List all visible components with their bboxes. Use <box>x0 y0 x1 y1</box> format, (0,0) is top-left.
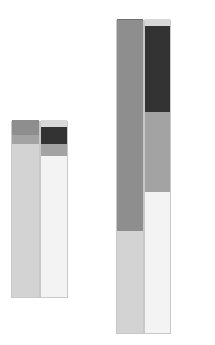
bar-segment <box>12 120 39 135</box>
bar-segment <box>117 231 143 333</box>
bar-segment <box>41 120 67 127</box>
bar-segment <box>41 144 67 156</box>
bar-segment <box>41 127 67 144</box>
bar-segment <box>117 163 143 231</box>
bar-segment <box>145 19 170 26</box>
bar-segment <box>12 135 39 144</box>
bar-group1-bar1 <box>11 121 40 298</box>
bar-group2-bar1 <box>116 20 144 334</box>
bar-group1-bar2 <box>40 121 68 298</box>
bar-segment <box>117 19 143 163</box>
bar-segment <box>145 112 170 192</box>
bar-segment <box>145 26 170 112</box>
bar-segment <box>41 156 67 297</box>
bar-segment <box>12 144 39 297</box>
bar-group2-bar2 <box>144 20 171 334</box>
bar-segment <box>145 192 170 333</box>
